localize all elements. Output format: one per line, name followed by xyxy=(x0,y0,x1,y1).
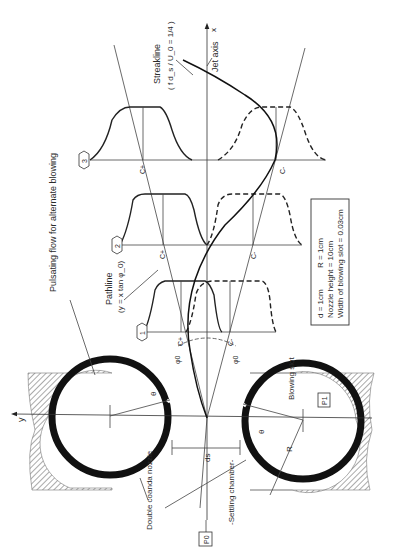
param-nozzle-height: Nozzle height = 10cm xyxy=(326,241,335,318)
param-r: R = 1cm xyxy=(316,238,325,268)
blowing-slot-label: Blowing slot xyxy=(287,357,296,400)
pathline-equation: (y = x tan φ_0) xyxy=(116,261,125,313)
theta-lower-label: θ xyxy=(257,429,266,434)
c-plus-3: C+ xyxy=(139,165,146,174)
c-plus-1: C+ xyxy=(177,337,184,346)
phi0-lower-label: φ0 xyxy=(232,355,240,364)
param-slot-width: Width of blowing slot = 0.03cm xyxy=(336,209,345,318)
pulsating-flow-label: Pulsating flow for alternate blowing xyxy=(48,153,58,292)
c-minus-3: C- xyxy=(279,166,286,174)
double-coanda-label: Double coanda nozzle xyxy=(145,450,154,530)
streakline-curve xyxy=(183,60,277,418)
svg-text:2: 2 xyxy=(114,244,121,248)
jet-axis-label: Jet axis xyxy=(210,41,220,72)
x-axis-label: x xyxy=(209,28,218,32)
station-1-profile-lower xyxy=(186,281,276,332)
coanda-nozzle-diagram: Streakline ( f d_s / U_0 = 1/4 ) Jet axi… xyxy=(0,0,404,555)
p1-box: P1 xyxy=(318,393,330,407)
theta-upper-label: θ xyxy=(149,391,158,396)
station-marker-2: 2 xyxy=(112,236,122,254)
c-minus-2: C- xyxy=(250,251,257,259)
station-1-profile-upper xyxy=(144,281,222,332)
parameters-box: d = 1cm R = 1cm Nozzle height = 10cm Wid… xyxy=(311,199,349,325)
y-axis-label: y xyxy=(16,417,26,422)
phi0-upper-label: φ0 xyxy=(174,355,182,364)
station-marker-1: 1 xyxy=(137,323,147,341)
svg-text:P0: P0 xyxy=(203,535,210,544)
station-marker-3: 3 xyxy=(79,151,89,169)
p0-box: P0 xyxy=(199,532,212,546)
ds-label: ds xyxy=(203,454,212,462)
param-d: d = 1cm xyxy=(316,289,325,318)
station-3-profile-lower xyxy=(218,107,326,160)
c-plus-2: C+ xyxy=(159,250,166,259)
streakline-equation: ( f d_s / U_0 = 1/4 ) xyxy=(166,21,175,90)
svg-text:1: 1 xyxy=(139,331,146,335)
radius-label: R xyxy=(285,446,294,452)
y-axis xyxy=(14,414,372,418)
c-minus-1: C- xyxy=(227,338,234,346)
pathline-title: Pathline xyxy=(104,272,114,305)
svg-text:3: 3 xyxy=(81,159,88,163)
settling-chamber-label: -Settling chamber- xyxy=(227,459,236,525)
station-2-profile-upper xyxy=(120,194,207,245)
svg-text:P1: P1 xyxy=(321,396,328,405)
streakline-title: Streakline xyxy=(152,44,162,84)
